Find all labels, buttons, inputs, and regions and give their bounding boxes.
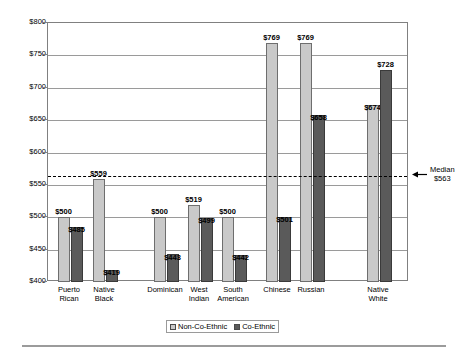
- bottom-divider: [22, 345, 446, 347]
- median-label-line2: $563: [430, 175, 455, 184]
- legend-swatch-icon: [234, 324, 240, 330]
- x-axis-label-line: Native: [348, 285, 408, 294]
- bar-value-label: $500: [52, 208, 76, 216]
- x-axis-label-line: Russian: [281, 285, 341, 294]
- y-axis-tick-mark: [43, 281, 47, 282]
- median-line: [48, 176, 407, 177]
- bar-value-label: $658: [307, 114, 331, 122]
- bar-value-label: $500: [216, 208, 240, 216]
- x-axis-label-line: Native: [74, 285, 134, 294]
- y-axis-tick-label: $450: [6, 245, 46, 253]
- median-annotation: Median $563: [412, 166, 455, 183]
- y-axis-tick-label: $700: [6, 83, 46, 91]
- bar-non-co-ethnic: [93, 179, 105, 282]
- bar-non-co-ethnic: [154, 217, 166, 282]
- bar-co-ethnic: [313, 115, 325, 282]
- gridline: [48, 55, 407, 56]
- legend-item: Co-Ethnic: [234, 322, 275, 331]
- bar-value-label: $442: [229, 254, 253, 262]
- bar-non-co-ethnic: [266, 43, 278, 282]
- legend-item: Non-Co-Ethnic: [170, 322, 227, 331]
- legend-label: Co-Ethnic: [242, 322, 275, 331]
- gridline: [48, 153, 407, 154]
- x-axis-label-russian: Russian: [281, 285, 341, 294]
- arrow-left-icon: [412, 170, 428, 179]
- legend-swatch-icon: [170, 324, 176, 330]
- y-axis-tick-label: $400: [6, 277, 46, 285]
- y-axis-tick-label: $800: [6, 18, 46, 26]
- y-axis-tick-label: $600: [6, 148, 46, 156]
- legend-label: Non-Co-Ethnic: [178, 322, 227, 331]
- bar-co-ethnic: [71, 227, 83, 282]
- y-axis-tick-label: $750: [6, 50, 46, 58]
- y-axis-tick-label: $550: [6, 180, 46, 188]
- bar-chart-figure: $800$750$700$650$600$550$500$450$400 $50…: [0, 0, 465, 357]
- y-axis-tick-label: $650: [6, 115, 46, 123]
- plot-area: $500$485$559$419$500$443$519$499$500$442…: [47, 22, 408, 281]
- bar-value-label: $443: [161, 254, 185, 262]
- bar-non-co-ethnic: [300, 43, 312, 282]
- bar-co-ethnic: [201, 218, 213, 282]
- bar-value-label: $769: [294, 34, 318, 42]
- x-axis-label-line: White: [348, 294, 408, 303]
- bar-value-label: $769: [260, 34, 284, 42]
- bar-value-label: $419: [100, 269, 124, 277]
- bar-non-co-ethnic: [222, 217, 234, 282]
- bar-value-label: $499: [195, 217, 219, 225]
- bar-value-label: $728: [374, 61, 398, 69]
- bar-value-label: $519: [182, 196, 206, 204]
- gridline: [48, 120, 407, 121]
- bar-co-ethnic: [279, 217, 291, 282]
- bar-value-label: $501: [273, 216, 297, 224]
- gridline: [48, 88, 407, 89]
- x-axis-label-line: Black: [74, 294, 134, 303]
- chart-legend: Non-Co-EthnicCo-Ethnic: [166, 320, 279, 333]
- bar-value-label: $485: [65, 226, 89, 234]
- x-axis-label-native-white: NativeWhite: [348, 285, 408, 303]
- median-label: Median $563: [430, 166, 455, 183]
- x-axis-label-native-black: NativeBlack: [74, 285, 134, 303]
- bar-non-co-ethnic: [367, 105, 379, 282]
- y-axis-tick-label: $500: [6, 212, 46, 220]
- bar-value-label: $500: [148, 208, 172, 216]
- x-axis-label-line: American: [203, 294, 263, 303]
